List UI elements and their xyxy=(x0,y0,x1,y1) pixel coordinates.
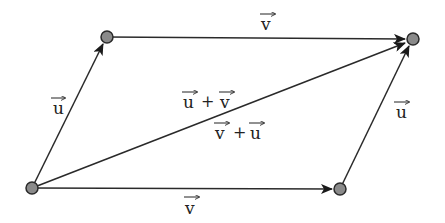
label-left-u: u xyxy=(51,98,65,118)
svg-text:+: + xyxy=(201,92,214,111)
svg-text:u: u xyxy=(183,92,194,112)
label-u-plus-v: u + v xyxy=(182,92,234,112)
edge-u-left xyxy=(32,44,103,188)
svg-text:v: v xyxy=(184,198,195,218)
svg-text:v: v xyxy=(214,123,225,143)
svg-text:+: + xyxy=(233,123,246,142)
label-right-u: u xyxy=(394,102,409,122)
edge-v-bottom xyxy=(32,188,332,189)
label-bottom-v: v xyxy=(184,197,199,218)
edge-v-top xyxy=(107,37,405,39)
node-c xyxy=(407,33,419,45)
svg-text:u: u xyxy=(250,123,261,143)
node-a xyxy=(26,182,38,194)
label-v-plus-u: v + u xyxy=(214,123,264,143)
node-d xyxy=(334,183,346,195)
svg-text:v: v xyxy=(260,14,271,34)
node-b xyxy=(101,31,113,43)
edge-diagonal xyxy=(32,43,405,188)
svg-text:v: v xyxy=(219,92,230,112)
label-top-v: v xyxy=(260,14,275,34)
vector-addition-diagram: u v v u u + v v + u xyxy=(0,0,445,223)
svg-text:u: u xyxy=(53,98,64,118)
svg-text:u: u xyxy=(396,102,407,122)
